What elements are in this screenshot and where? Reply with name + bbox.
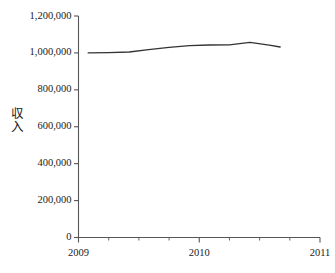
axis-lines [78, 16, 320, 238]
y-axis-tick-marks [74, 16, 79, 238]
y-axis-tick-label: 800,000 [37, 84, 71, 95]
y-axis-tick-label: 200,000 [37, 195, 71, 206]
x-axis-tick-label: 2009 [49, 248, 109, 259]
y-axis-tick-label: 1,200,000 [30, 11, 72, 22]
y-axis-tick-label: 1,000,000 [30, 47, 72, 58]
data-series-line [88, 42, 280, 53]
revenue-line-chart: 収 入 0200,000400,000600,000800,0001,000,0… [0, 0, 335, 273]
y-axis-tick-label: 600,000 [37, 121, 71, 132]
y-axis-tick-label: 0 [66, 232, 71, 243]
x-axis-tick-label: 2010 [169, 248, 229, 259]
y-axis-tick-label: 400,000 [37, 158, 71, 169]
x-axis-tick-label: 2011 [290, 248, 335, 259]
x-axis-tick-marks [79, 238, 321, 243]
plot-area [0, 0, 335, 273]
